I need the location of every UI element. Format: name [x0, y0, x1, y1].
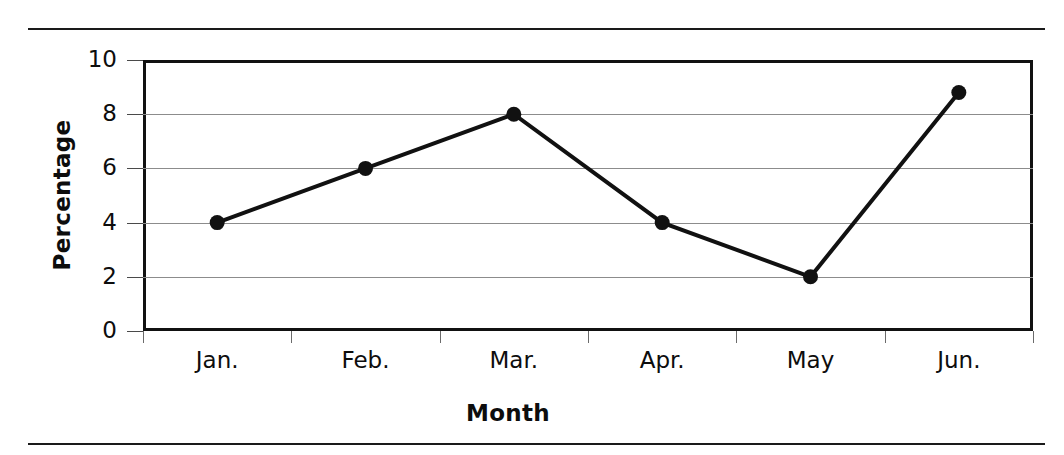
y-tick-label-6: 6	[55, 156, 117, 179]
plot-area-frame	[143, 60, 1033, 331]
y-tick-label-8: 8	[55, 102, 117, 125]
x-tick-2	[440, 331, 441, 343]
x-axis-title: Month	[0, 400, 1064, 426]
x-tick-4	[736, 331, 737, 343]
x-tick-0	[143, 331, 144, 343]
gridline-y-2	[143, 277, 1033, 278]
y-tick-0	[127, 331, 143, 332]
x-tick-label-apr: Apr.	[592, 349, 732, 372]
y-tick-2	[127, 277, 143, 278]
y-tick-label-10: 10	[55, 48, 117, 71]
y-tick-label-2: 2	[55, 265, 117, 288]
x-tick-6	[1033, 331, 1034, 343]
x-tick-3	[588, 331, 589, 343]
x-tick-label-may: May	[741, 349, 881, 372]
x-tick-label-mar: Mar.	[444, 349, 584, 372]
y-tick-10	[127, 60, 143, 61]
gridline-y-4	[143, 223, 1033, 224]
page-rule-bottom	[28, 443, 1045, 445]
y-tick-4	[127, 223, 143, 224]
x-tick-1	[291, 331, 292, 343]
x-tick-label-jun: Jun.	[889, 349, 1029, 372]
line-chart-figure: Percentage 0246810 Jan.Feb.Mar.Apr.MayJu…	[0, 0, 1064, 455]
x-tick-5	[885, 331, 886, 343]
y-axis-title: Percentage	[49, 120, 75, 271]
y-tick-8	[127, 114, 143, 115]
gridline-y-8	[143, 114, 1033, 115]
x-axis-title-text: Month	[466, 400, 550, 426]
x-tick-label-jan: Jan.	[147, 349, 287, 372]
gridline-y-6	[143, 168, 1033, 169]
y-tick-6	[127, 168, 143, 169]
x-tick-label-feb: Feb.	[296, 349, 436, 372]
chart-page: Percentage 0246810 Jan.Feb.Mar.Apr.MayJu…	[0, 0, 1064, 455]
y-tick-label-4: 4	[55, 211, 117, 234]
y-tick-label-0: 0	[55, 319, 117, 342]
